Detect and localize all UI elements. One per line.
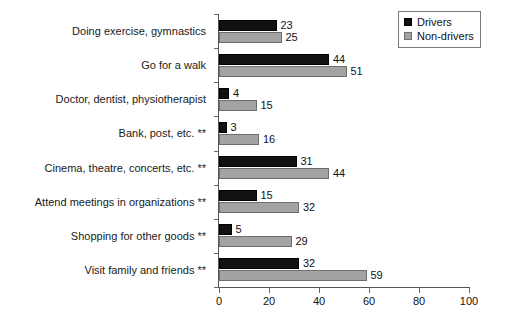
y-axis-tick xyxy=(214,48,218,49)
category-label: Doctor, dentist, physiotherapist xyxy=(0,93,206,105)
bar-value-label: 23 xyxy=(281,19,293,31)
bar-non-drivers xyxy=(219,236,292,247)
bar-drivers xyxy=(219,20,277,31)
chart-legend: Drivers Non-drivers xyxy=(398,11,481,48)
x-axis-line xyxy=(218,287,470,288)
category-label: Shopping for other goods ** xyxy=(0,230,206,242)
x-axis-tick xyxy=(469,288,470,293)
bar-non-drivers xyxy=(219,168,329,179)
bar-non-drivers xyxy=(219,134,259,145)
category-label: Attend meetings in organizations ** xyxy=(0,196,206,208)
bar-value-label: 5 xyxy=(236,223,242,235)
y-axis-tick xyxy=(214,151,218,152)
bar-chart: Doing exercise, gymnasticsGo for a walkD… xyxy=(0,0,510,317)
bar-non-drivers xyxy=(219,32,282,43)
bar-value-label: 4 xyxy=(233,87,239,99)
x-axis-tick-label: 60 xyxy=(349,295,389,308)
bar-value-label: 32 xyxy=(303,201,315,213)
bar-value-label: 44 xyxy=(333,167,345,179)
bar-non-drivers xyxy=(219,100,257,111)
bar-drivers xyxy=(219,258,299,269)
bar-drivers xyxy=(219,54,329,65)
bar-value-label: 25 xyxy=(286,31,298,43)
category-label: Go for a walk xyxy=(0,59,206,71)
legend-label-drivers: Drivers xyxy=(417,16,452,28)
bar-non-drivers xyxy=(219,270,367,281)
x-axis-tick xyxy=(219,288,220,293)
bar-drivers xyxy=(219,88,229,99)
bar-drivers xyxy=(219,156,297,167)
bar-non-drivers xyxy=(219,66,347,77)
y-axis-tick xyxy=(214,185,218,186)
y-axis-tick xyxy=(214,82,218,83)
legend-swatch-black-square xyxy=(404,18,412,26)
legend-label-non-drivers: Non-drivers xyxy=(417,30,474,42)
legend-item-non-drivers: Non-drivers xyxy=(404,29,474,43)
bar-value-label: 15 xyxy=(261,99,273,111)
x-axis-tick-label: 0 xyxy=(199,295,239,308)
bar-value-label: 59 xyxy=(371,269,383,281)
y-axis-tick xyxy=(214,287,218,288)
x-axis-tick xyxy=(269,288,270,293)
bar-value-label: 31 xyxy=(301,155,313,167)
x-axis-tick-label: 80 xyxy=(399,295,439,308)
bar-drivers xyxy=(219,122,227,133)
legend-item-drivers: Drivers xyxy=(404,15,474,29)
x-axis-tick-label: 40 xyxy=(299,295,339,308)
bar-drivers xyxy=(219,190,257,201)
x-axis-tick-label: 100 xyxy=(449,295,489,308)
legend-swatch-gray-square xyxy=(404,32,412,40)
category-label: Doing exercise, gymnastics xyxy=(0,25,206,37)
category-label: Bank, post, etc. ** xyxy=(0,127,206,139)
x-axis-tick-label: 20 xyxy=(249,295,289,308)
y-axis-tick xyxy=(214,219,218,220)
y-axis-tick xyxy=(214,116,218,117)
x-axis-tick xyxy=(419,288,420,293)
bar-value-label: 29 xyxy=(296,235,308,247)
y-axis-tick xyxy=(214,14,218,15)
bar-value-label: 16 xyxy=(263,133,275,145)
bar-drivers xyxy=(219,224,232,235)
y-axis-tick xyxy=(214,253,218,254)
x-axis-tick xyxy=(369,288,370,293)
bar-value-label: 3 xyxy=(231,121,237,133)
category-label: Cinema, theatre, concerts, etc. ** xyxy=(0,162,206,174)
bar-value-label: 44 xyxy=(333,53,345,65)
plot-area: 23254451415316314415325293259 0204060801… xyxy=(218,14,470,287)
category-axis-labels: Doing exercise, gymnasticsGo for a walkD… xyxy=(0,14,212,287)
category-label: Visit family and friends ** xyxy=(0,264,206,276)
bar-value-label: 15 xyxy=(261,189,273,201)
x-axis-tick xyxy=(319,288,320,293)
bar-value-label: 51 xyxy=(351,65,363,77)
bar-value-label: 32 xyxy=(303,257,315,269)
bar-non-drivers xyxy=(219,202,299,213)
